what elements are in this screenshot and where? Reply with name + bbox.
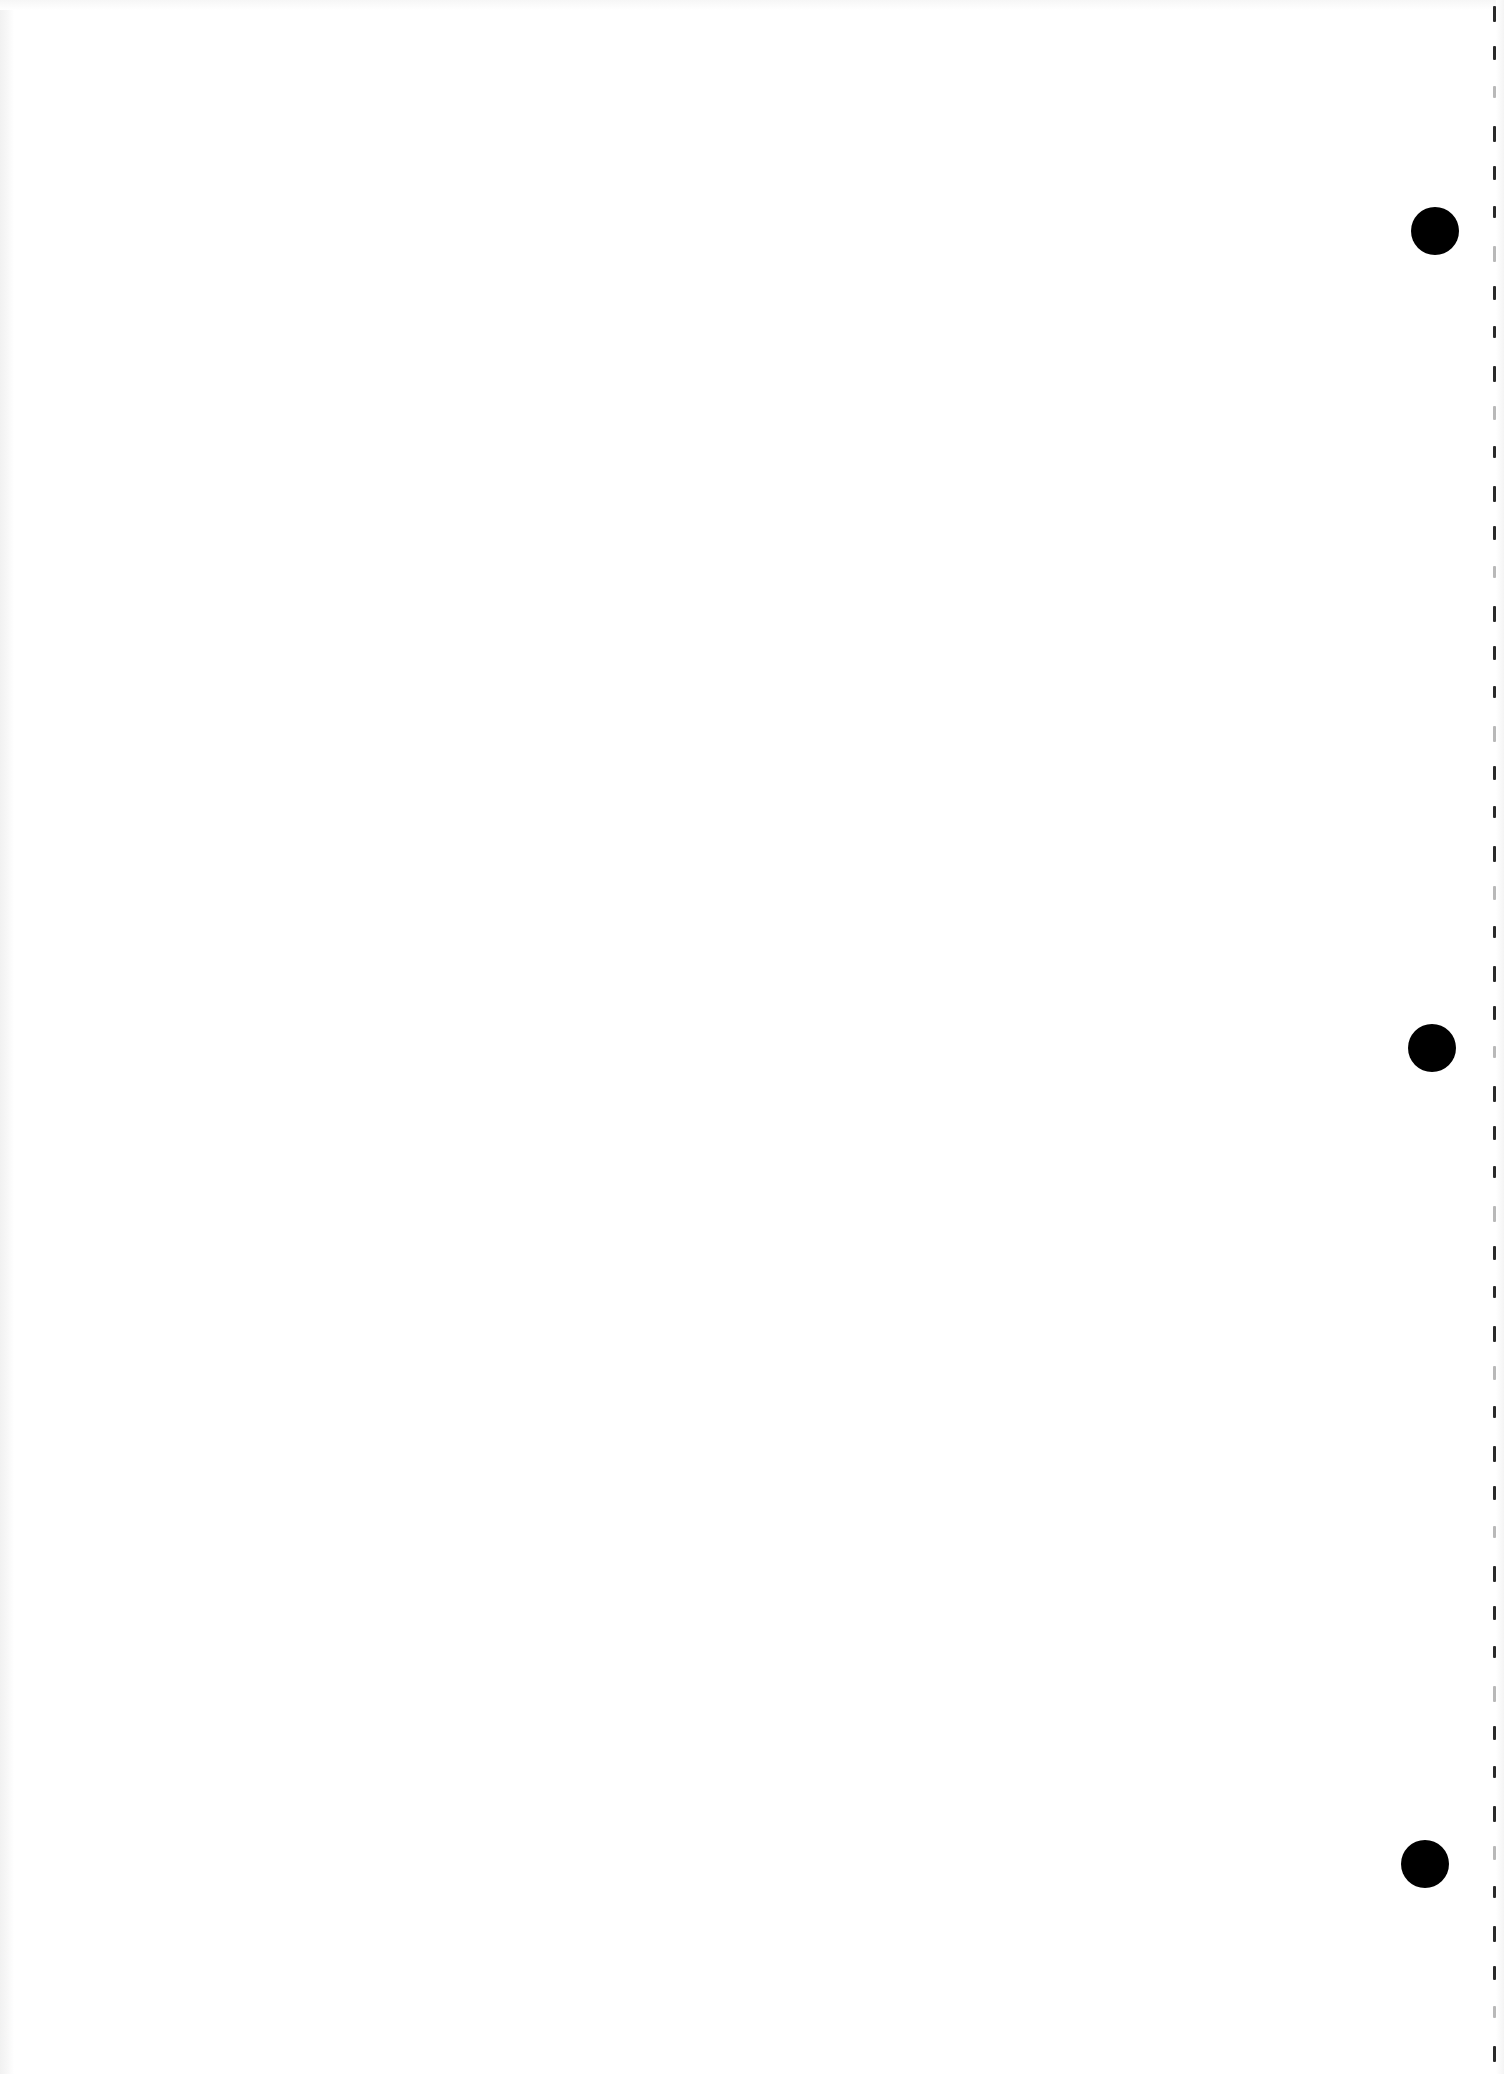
perforation-dash bbox=[1493, 1926, 1496, 1942]
punch-hole-top bbox=[1411, 207, 1459, 255]
perforation-dash bbox=[1493, 286, 1496, 300]
perforation-dash bbox=[1493, 806, 1496, 818]
perforation-dash bbox=[1493, 1446, 1496, 1462]
perforation-dash bbox=[1493, 1326, 1496, 1342]
perforation-dash bbox=[1493, 526, 1496, 540]
left-edge-shade bbox=[0, 0, 14, 2074]
top-edge-shade bbox=[0, 0, 1504, 10]
punch-hole-bottom bbox=[1401, 1840, 1449, 1888]
perforation-dash bbox=[1493, 486, 1496, 502]
perforation-dash bbox=[1493, 206, 1496, 218]
perforation-dash bbox=[1493, 1646, 1496, 1658]
perforation-dash bbox=[1493, 1206, 1496, 1222]
perforation-dash bbox=[1493, 1526, 1496, 1538]
perforation-dash bbox=[1493, 1086, 1496, 1102]
perforation-dash bbox=[1493, 1366, 1496, 1380]
perforation-dash bbox=[1493, 126, 1496, 142]
perforation-dash bbox=[1493, 566, 1496, 578]
perforation-dash bbox=[1493, 1286, 1496, 1298]
paper-sheet bbox=[0, 0, 1504, 2074]
perforation-dash bbox=[1493, 166, 1496, 180]
perforation-dash bbox=[1493, 726, 1496, 742]
perforation-dash bbox=[1493, 646, 1496, 660]
perforation-dash bbox=[1493, 846, 1496, 862]
perforation-dash bbox=[1493, 1726, 1496, 1740]
perforation-dash bbox=[1493, 326, 1496, 338]
perforation-dash bbox=[1493, 1166, 1496, 1178]
perforation-dash bbox=[1493, 86, 1496, 98]
perforation-dash bbox=[1493, 1486, 1496, 1500]
perforation-dash bbox=[1493, 1606, 1496, 1620]
perforation-dash bbox=[1493, 966, 1496, 982]
perforation-dash bbox=[1493, 1246, 1496, 1260]
perforation-dash bbox=[1493, 766, 1496, 780]
perforation-dash bbox=[1493, 886, 1496, 900]
perforation-dash bbox=[1493, 1406, 1496, 1418]
perforation-dash bbox=[1493, 1886, 1496, 1898]
perforation-dash bbox=[1493, 1966, 1496, 1980]
perforation-dash bbox=[1493, 606, 1496, 622]
perforation-dash bbox=[1493, 1006, 1496, 1020]
perforation-dash bbox=[1493, 6, 1496, 22]
perforation-dash bbox=[1493, 1686, 1496, 1702]
perforation-dash bbox=[1493, 1566, 1496, 1582]
perforation-dash bbox=[1493, 926, 1496, 938]
perforation-dash bbox=[1493, 1766, 1496, 1778]
perforation-dash bbox=[1493, 46, 1496, 60]
perforation-dash bbox=[1493, 1846, 1496, 1860]
perforation-dash bbox=[1493, 686, 1496, 698]
perforation-dash bbox=[1493, 2006, 1496, 2018]
punch-hole-middle bbox=[1408, 1024, 1456, 1072]
perforation-dash bbox=[1493, 366, 1496, 382]
perforation-dash bbox=[1493, 446, 1496, 458]
perforation-dash bbox=[1493, 2046, 1496, 2062]
perforation-dash bbox=[1493, 1046, 1496, 1058]
perforation-dash bbox=[1493, 1126, 1496, 1140]
perforation-dash bbox=[1493, 406, 1496, 420]
perforation-line bbox=[1492, 0, 1498, 2074]
perforation-dash bbox=[1493, 246, 1496, 262]
perforation-dash bbox=[1493, 1806, 1496, 1822]
